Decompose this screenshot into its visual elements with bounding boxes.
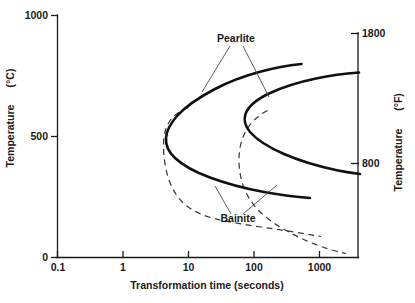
y2-axis-title: Temperature: [392, 128, 404, 191]
x-tick-label-1000: 1000: [308, 261, 332, 273]
bainite-label: Bainite: [220, 212, 255, 224]
x-tick-label-10: 10: [183, 261, 195, 273]
axis-group: [57, 15, 359, 258]
bainite-leader-left: [215, 186, 231, 214]
y-tick-label-1000: 1000: [25, 9, 49, 21]
y2-axis-title-group: Temperature: [392, 128, 404, 191]
y2-axis-unit-group: (°F): [392, 93, 404, 111]
y2-axis-unit: (°F): [392, 93, 404, 111]
x-tick-label-0.1: 0.1: [51, 261, 66, 273]
y-tick-label-0: 0: [42, 251, 48, 263]
x-tick-label-100: 100: [245, 261, 263, 273]
pearlite-finish-curve: [245, 73, 360, 175]
chart-canvas: 1000 500 0 1800 800 0.1 1 10 100 1000 Tr…: [0, 0, 415, 303]
y-axis-title: Temperature: [4, 104, 16, 167]
ttt-diagram-figure: 1000 500 0 1800 800 0.1 1 10 100 1000 Tr…: [0, 0, 415, 303]
y-tick-label-500: 500: [30, 130, 48, 142]
y2-tick-label-1800: 1800: [362, 27, 386, 39]
y-axis-unit: (°C): [4, 69, 16, 88]
pearlite-start-curve: [166, 64, 310, 198]
y-axis-unit-group: (°C): [4, 69, 16, 88]
x-tick-label-1: 1: [120, 261, 126, 273]
y-axis-title-group: Temperature: [4, 104, 16, 167]
y2-tick-label-800: 800: [362, 157, 380, 169]
x-axis-title: Transformation time (seconds): [130, 279, 283, 291]
pearlite-label: Pearlite: [217, 32, 255, 44]
